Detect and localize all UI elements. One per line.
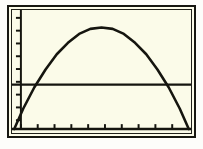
graph-plot-area[interactable]	[12, 10, 191, 133]
calculator-screen-bezel	[11, 9, 192, 134]
calculator-screen-frame	[7, 5, 196, 138]
calculator-screenshot	[0, 0, 203, 149]
